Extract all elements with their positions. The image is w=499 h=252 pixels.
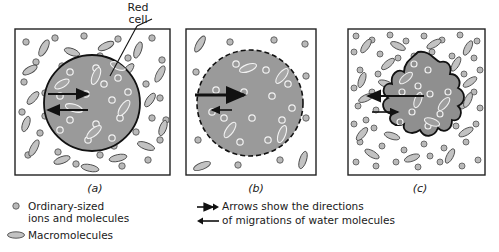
panel-caption-a: (a) [75, 182, 115, 195]
legend-arrows: Arrows show the directions of migrations… [196, 200, 426, 228]
panel-caption-b: (b) [236, 182, 276, 195]
legend-macromolecules-label: Macromolecules [28, 229, 184, 241]
legend-ions-line1: Ordinary-sized [28, 200, 184, 212]
arrow-right-icon [196, 200, 222, 214]
legend-ions-line2: ions and molecules [28, 212, 184, 224]
legend-particles: Ordinary-sized ions and molecules Macrom… [4, 200, 184, 246]
legend-arrows-line2: of migrations of water molecules [222, 214, 395, 226]
legend-arrows-line1: Arrows show the directions [222, 200, 364, 212]
legend-item-ions: Ordinary-sized ions and molecules [4, 200, 184, 224]
panel-c [348, 29, 485, 175]
ellipse-icon [4, 229, 28, 240]
red-cell-annotation-line2: cell [118, 14, 158, 26]
panel-caption-c: (c) [400, 182, 440, 195]
red-cell-annotation: Red cell [118, 2, 158, 26]
panel-a [15, 19, 170, 175]
small-circle-icon [4, 200, 28, 211]
legend-arrow-row-1: Arrows show the directions [196, 200, 426, 214]
legend-arrow-row-2: of migrations of water molecules [196, 214, 426, 228]
arrow-left-icon [196, 214, 222, 228]
legend-item-macromolecules: Macromolecules [4, 229, 184, 241]
panel-b [186, 29, 316, 175]
